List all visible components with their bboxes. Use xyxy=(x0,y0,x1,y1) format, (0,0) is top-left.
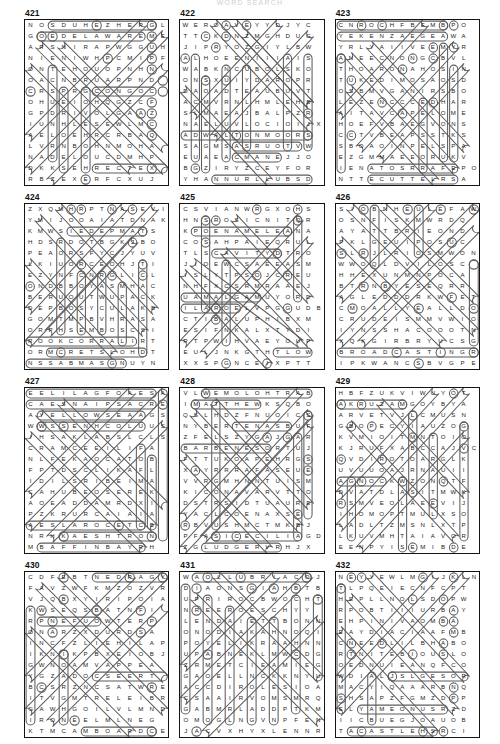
grid-letter: L xyxy=(58,410,69,421)
grid-letter xyxy=(313,432,323,443)
grid-letter: N xyxy=(269,715,280,726)
grid-letter: O xyxy=(272,130,282,141)
grid-letter: J xyxy=(146,174,157,185)
puzzle-board[interactable]: NEYYEWLMGIJKLNTLPQEIECNFCPTHEPLLNOLSDOPW… xyxy=(335,571,480,738)
grid-letter: N xyxy=(418,520,428,531)
grid-letter: A xyxy=(272,281,282,292)
grid-letter: O xyxy=(221,303,231,314)
grid-letter: L xyxy=(124,421,135,432)
grid-letter: C xyxy=(262,119,272,130)
puzzle-board[interactable]: CDFEBTNEDRAGYFAVZWFKMZOZVRVJQBXYIRIPOIAK… xyxy=(24,571,169,738)
grid-letter: O xyxy=(135,594,146,605)
puzzle-board[interactable]: HBFZUKVIWUYOTAKRUZAMGOYBYAARVETVJLCMUSNG… xyxy=(335,387,480,554)
grid-letter: C xyxy=(438,583,448,594)
grid-letter: I xyxy=(146,605,157,616)
grid-letter: A xyxy=(135,108,146,119)
grid-letter: A xyxy=(366,671,376,682)
grid-letter xyxy=(313,226,323,237)
grid-letter: A xyxy=(69,531,80,542)
grid-letter: U xyxy=(293,31,303,42)
grid-letter: O xyxy=(25,75,36,86)
grid-letter: A xyxy=(293,432,303,443)
grid-letter: E xyxy=(428,31,438,42)
grid-letter: L xyxy=(283,347,293,358)
grid-letter: R xyxy=(252,204,262,215)
grid-letter: O xyxy=(211,53,221,64)
puzzle-board[interactable]: WAOLLUBRIACOJDIAONSGIAHBTBUPRIROCBWOCHTN… xyxy=(179,571,324,738)
grid-letter: E xyxy=(35,248,45,259)
grid-letter: T xyxy=(366,487,376,498)
grid-letter: A xyxy=(397,443,407,454)
grid-letter: W xyxy=(303,141,313,152)
grid-letter: H xyxy=(391,204,402,215)
grid-letter: Z xyxy=(180,542,190,553)
grid-letter: O xyxy=(358,347,369,358)
grid-letter: C xyxy=(457,237,468,248)
grid-letter: M xyxy=(191,399,201,410)
puzzle-board[interactable]: SIOBNHEULEFAWOSNFISKMWRDQAYATTBRIEONDPKL… xyxy=(335,203,480,370)
grid-letter: G xyxy=(146,715,157,726)
grid-letter: Y xyxy=(242,75,252,86)
grid-letter: T xyxy=(377,410,387,421)
grid-letter: Z xyxy=(69,682,80,693)
puzzle-board[interactable]: CSVIANWRGXOHSHNSROSICNITQRKPOENAMELEANAC… xyxy=(179,203,324,370)
grid-letter: C xyxy=(246,594,257,605)
grid-letter: A xyxy=(124,509,135,520)
grid-letter: D xyxy=(402,292,413,303)
grid-letter xyxy=(313,97,323,108)
grid-letter: C xyxy=(86,259,96,270)
grid-letter: N xyxy=(358,325,369,336)
grid-letter: V xyxy=(211,97,221,108)
grid-letter: A xyxy=(336,292,347,303)
grid-letter xyxy=(157,86,168,97)
grid-letter: K xyxy=(158,215,168,226)
grid-letter: I xyxy=(25,693,36,704)
grid-letter: E xyxy=(76,325,86,336)
grid-letter: O xyxy=(418,616,428,627)
grid-letter: B xyxy=(397,649,407,660)
grid-letter: S xyxy=(303,454,313,465)
grid-letter: R xyxy=(135,671,146,682)
grid-letter: S xyxy=(45,237,55,248)
grid-letter: G xyxy=(201,141,211,152)
grid-letter: L xyxy=(377,594,387,605)
grid-letter: E xyxy=(58,174,69,185)
grid-letter: D xyxy=(293,325,303,336)
grid-letter: C xyxy=(391,347,402,358)
puzzle-board[interactable]: CNROCHFBEMBPOYEKENZAEGEAWAYRLYAIIVEEMYRA… xyxy=(335,19,480,186)
puzzle-number: 424 xyxy=(24,192,169,202)
puzzle-board[interactable]: ZXQMHRPTNASEVIYMIJOOAIATDNAKKMWSIEDEPMAT… xyxy=(24,203,169,370)
grid-letter: C xyxy=(221,281,231,292)
grid-letter: H xyxy=(387,20,397,31)
puzzle-board[interactable]: VLWEMOLOHTRABIMATTHEWKSQBOQSLHDZFNUOICSN… xyxy=(179,387,324,554)
grid-letter: D xyxy=(36,572,47,583)
grid-letter: J xyxy=(369,248,380,259)
puzzle: 427EELILAGFOAESACAESNAIPSACREAYELLOWSEAA… xyxy=(24,376,169,554)
grid-letter: H xyxy=(91,97,102,108)
grid-letter: I xyxy=(221,531,231,542)
grid-letter: H xyxy=(387,531,397,542)
grid-letter: I xyxy=(457,314,468,325)
grid-letter: F xyxy=(58,638,69,649)
grid-letter: N xyxy=(25,454,36,465)
grid-letter: I xyxy=(25,638,36,649)
puzzle-board[interactable]: NOSDUHEZHERGLGOEDELAWAREMEARSNIRAPWGGUHN… xyxy=(24,19,169,186)
grid-letter: E xyxy=(242,86,252,97)
grid-letter: A xyxy=(201,152,211,163)
grid-letter: T xyxy=(397,509,407,520)
grid-letter: J xyxy=(448,443,458,454)
grid-letter: Q xyxy=(69,605,80,616)
grid-letter: C xyxy=(201,509,211,520)
grid-letter: L xyxy=(69,388,80,399)
grid-letter: I xyxy=(201,314,211,325)
grid-letter: R xyxy=(358,281,369,292)
grid-letter: R xyxy=(428,86,438,97)
grid-letter xyxy=(313,31,323,42)
grid-letter: N xyxy=(377,97,387,108)
grid-letter: R xyxy=(258,572,269,583)
puzzle-board[interactable]: WEROAVEYYDJYCTTCKDNZMGHDUGJIPRYOZGIYLBWA… xyxy=(179,19,324,186)
grid-letter: R xyxy=(283,388,293,399)
grid-letter: S xyxy=(211,531,221,542)
grid-letter: Z xyxy=(387,520,397,531)
puzzle-board[interactable]: EELILAGFOAESACAESNAIPSACREAYELLOWSEAAGSW… xyxy=(24,387,169,554)
